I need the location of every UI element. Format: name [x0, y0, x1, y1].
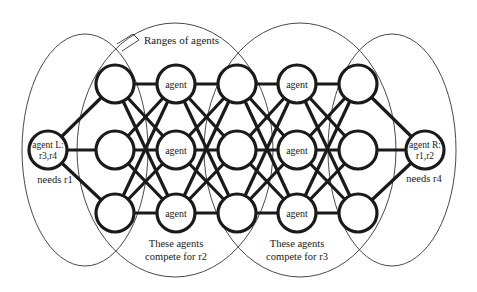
network-node-label: agent	[165, 79, 187, 90]
agent-right-label-line1: agent R:	[409, 140, 441, 150]
network-node	[96, 65, 134, 103]
agent-network-diagram: Ranges of agents agentagentagentagentage…	[0, 0, 477, 292]
network-node	[339, 65, 377, 103]
network-node: agent	[157, 131, 195, 169]
network-node-label: agent	[286, 145, 308, 156]
callout-label: Ranges of agents	[144, 34, 219, 46]
network-node-label: agent	[286, 79, 308, 90]
network-node-label: agent	[165, 145, 187, 156]
network-node	[339, 194, 377, 232]
network-node: agent	[157, 194, 195, 232]
network-node	[96, 194, 134, 232]
network-node-label: agent	[165, 208, 187, 219]
diagram-svg: Ranges of agents agentagentagentagentage…	[0, 0, 477, 292]
agent-left-label-line2: r3,r4	[39, 151, 57, 161]
network-node	[339, 131, 377, 169]
network-node	[218, 65, 256, 103]
agent-right-label-line2: r1,r2	[416, 151, 434, 161]
callout-pointer	[117, 34, 139, 51]
agent-right-node: agent R: r1,r2	[406, 131, 444, 169]
agent-right-needs: needs r4	[406, 173, 442, 184]
network-node: agent	[157, 65, 195, 103]
agent-left-label-line1: agent L:	[32, 140, 63, 150]
network-node: agent	[278, 65, 316, 103]
compete-r3-line2: compete for r3	[266, 251, 328, 262]
network-node: agent	[278, 131, 316, 169]
network-node	[96, 131, 134, 169]
agent-left-node: agent L: r3,r4	[29, 131, 67, 169]
compete-r2-line2: compete for r2	[145, 251, 207, 262]
compete-r3-line1: These agents	[270, 238, 325, 249]
agent-left-needs: needs r1	[37, 174, 72, 185]
network-node-label: agent	[286, 208, 308, 219]
network-node: agent	[278, 194, 316, 232]
network-node	[218, 194, 256, 232]
compete-r2-line1: These agents	[149, 238, 204, 249]
network-node	[218, 131, 256, 169]
